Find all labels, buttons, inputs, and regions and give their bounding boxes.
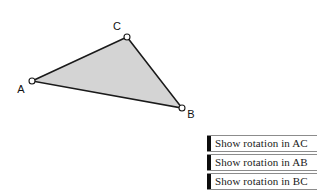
geometry-canvas[interactable]: A C B [0, 0, 210, 130]
show-rotation-ac-label: Show rotation in AC [215, 136, 308, 151]
vertex-label-b: B [187, 108, 194, 120]
show-rotation-ab-label: Show rotation in AB [215, 155, 308, 170]
show-rotation-bc-button[interactable]: Show rotation in BC [207, 173, 317, 190]
vertex-label-c: C [113, 20, 121, 32]
vertex-marker-c[interactable] [124, 34, 130, 40]
applet-root: A C B Show rotation in AC Show rotation … [0, 0, 317, 193]
vertex-marker-a[interactable] [29, 78, 35, 84]
vertex-marker-b[interactable] [179, 105, 185, 111]
rotation-button-panel: Show rotation in AC Show rotation in AB … [207, 135, 317, 192]
show-rotation-ac-button[interactable]: Show rotation in AC [207, 135, 317, 152]
drag-grip-icon[interactable] [207, 155, 211, 170]
show-rotation-ab-button[interactable]: Show rotation in AB [207, 154, 317, 171]
triangle-polygon[interactable] [32, 37, 182, 108]
drag-grip-icon[interactable] [207, 174, 211, 189]
drag-grip-icon[interactable] [207, 136, 211, 151]
triangle-figure: A C B [0, 0, 210, 130]
vertex-label-a: A [17, 83, 25, 95]
show-rotation-bc-label: Show rotation in BC [215, 174, 308, 189]
